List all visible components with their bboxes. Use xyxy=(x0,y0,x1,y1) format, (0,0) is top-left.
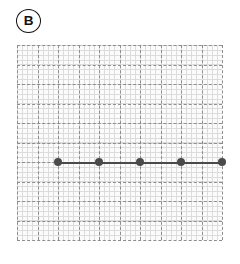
data-point-marker xyxy=(177,158,186,167)
data-point-marker xyxy=(136,158,145,167)
grid-line-vertical xyxy=(222,45,223,240)
data-point-marker xyxy=(218,158,227,167)
series-line-segment xyxy=(181,162,222,164)
data-point-marker xyxy=(95,158,104,167)
panel-label-badge: B xyxy=(16,9,41,33)
grid-line-horizontal xyxy=(17,240,222,241)
series-line-segment xyxy=(58,162,99,164)
chart-plot-area xyxy=(17,45,222,240)
chart-series-layer xyxy=(17,45,222,240)
series-line-segment xyxy=(140,162,181,164)
panel-label-letter: B xyxy=(16,9,41,33)
series-line-segment xyxy=(99,162,140,164)
data-point-marker xyxy=(54,158,63,167)
